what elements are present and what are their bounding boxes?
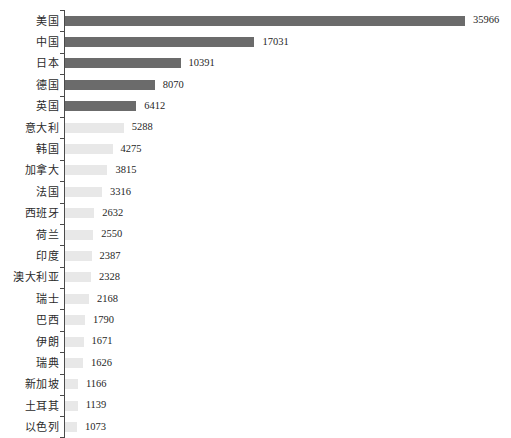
- bar-row: 法国3316: [0, 181, 511, 202]
- bar-group: 8070: [65, 80, 184, 90]
- axis-tick: [60, 96, 65, 97]
- category-label: 法国: [36, 186, 59, 197]
- bar-value-label: 3316: [110, 187, 131, 198]
- bar-group: 1073: [65, 422, 106, 432]
- bar[interactable]: [65, 101, 136, 111]
- bar[interactable]: [65, 230, 93, 240]
- axis-tick: [60, 160, 65, 161]
- bar[interactable]: [65, 358, 83, 368]
- bar[interactable]: [65, 16, 465, 26]
- category-label: 加拿大: [25, 165, 60, 176]
- bar-row-list: 美国35966中国17031日本10391德国8070英国6412意大利5288…: [0, 10, 511, 438]
- bar[interactable]: [65, 144, 113, 154]
- bar-value-label: 5288: [132, 122, 153, 133]
- bar-value-label: 1626: [91, 358, 112, 369]
- bar-group: 5288: [65, 123, 153, 133]
- bar[interactable]: [65, 422, 77, 432]
- bar-value-label: 2632: [102, 208, 123, 219]
- bar[interactable]: [65, 37, 254, 47]
- horizontal-bar-chart: 美国35966中国17031日本10391德国8070英国6412意大利5288…: [0, 0, 511, 438]
- axis-tick: [60, 288, 65, 289]
- axis-tick: [60, 416, 65, 417]
- bar-value-label: 1073: [85, 422, 106, 433]
- axis-tick: [60, 395, 65, 396]
- bar-row: 日本10391: [0, 53, 511, 74]
- bar-row: 巴西1790: [0, 309, 511, 330]
- plot-area: 美国35966中国17031日本10391德国8070英国6412意大利5288…: [0, 0, 511, 438]
- bar-group: 1166: [65, 379, 107, 389]
- axis-tick: [60, 245, 65, 246]
- axis-tick: [60, 203, 65, 204]
- bar-value-label: 35966: [473, 15, 499, 26]
- bar[interactable]: [65, 251, 92, 261]
- bar-group: 4275: [65, 144, 142, 154]
- axis-tick: [60, 74, 65, 75]
- bar-row: 韩国4275: [0, 138, 511, 159]
- axis-tick: [60, 352, 65, 353]
- bar[interactable]: [65, 401, 78, 411]
- axis-tick: [60, 181, 65, 182]
- bar-value-label: 2328: [99, 272, 120, 283]
- category-label: 西班牙: [25, 208, 60, 219]
- bar-value-label: 1166: [86, 379, 107, 390]
- bar-value-label: 2168: [97, 294, 118, 305]
- bar-group: 1790: [65, 315, 114, 325]
- bar-row: 西班牙2632: [0, 203, 511, 224]
- bar[interactable]: [65, 165, 107, 175]
- bar-row: 美国35966: [0, 10, 511, 31]
- category-label: 土耳其: [25, 400, 60, 411]
- bar[interactable]: [65, 379, 78, 389]
- category-label: 印度: [36, 250, 59, 261]
- bar-row: 新加坡1166: [0, 374, 511, 395]
- bar-group: 1671: [65, 337, 113, 347]
- category-label: 巴西: [36, 315, 59, 326]
- bar-row: 土耳其1139: [0, 395, 511, 416]
- bar-row: 印度2387: [0, 245, 511, 266]
- bar-row: 加拿大3815: [0, 160, 511, 181]
- bar[interactable]: [65, 294, 89, 304]
- bar-group: 35966: [65, 16, 499, 26]
- bar-value-label: 17031: [262, 37, 288, 48]
- bar[interactable]: [65, 272, 91, 282]
- category-label: 伊朗: [36, 336, 59, 347]
- bar[interactable]: [65, 187, 102, 197]
- bar[interactable]: [65, 123, 124, 133]
- bar-group: 3815: [65, 165, 136, 175]
- bar-value-label: 3815: [115, 165, 136, 176]
- bar-row: 瑞士2168: [0, 288, 511, 309]
- bar-value-label: 4275: [121, 144, 142, 155]
- bar[interactable]: [65, 337, 84, 347]
- bar-row: 意大利5288: [0, 117, 511, 138]
- category-label: 瑞士: [36, 293, 59, 304]
- bar-value-label: 6412: [144, 101, 165, 112]
- category-label: 以色列: [25, 422, 60, 433]
- bar[interactable]: [65, 208, 94, 218]
- category-label: 澳大利亚: [13, 272, 59, 283]
- bar-value-label: 1139: [86, 400, 107, 411]
- bar-value-label: 1790: [93, 315, 114, 326]
- bar-group: 10391: [65, 58, 215, 68]
- category-label: 瑞典: [36, 357, 59, 368]
- axis-tick: [60, 374, 65, 375]
- bar-row: 以色列1073: [0, 416, 511, 437]
- bar[interactable]: [65, 58, 181, 68]
- bar-row: 中国17031: [0, 31, 511, 52]
- category-label: 意大利: [25, 122, 60, 133]
- axis-tick: [60, 267, 65, 268]
- axis-tick: [60, 10, 65, 11]
- bar-value-label: 2550: [101, 229, 122, 240]
- bar[interactable]: [65, 315, 85, 325]
- bar-group: 2387: [65, 251, 121, 261]
- axis-tick: [60, 31, 65, 32]
- bar-group: 2632: [65, 208, 123, 218]
- bar-group: 2168: [65, 294, 118, 304]
- bar-row: 荷兰2550: [0, 224, 511, 245]
- bar-group: 1139: [65, 401, 106, 411]
- bar[interactable]: [65, 80, 155, 90]
- axis-tick: [60, 331, 65, 332]
- bar-row: 德国8070: [0, 74, 511, 95]
- category-label: 英国: [36, 101, 59, 112]
- bar-group: 3316: [65, 187, 131, 197]
- bar-row: 伊朗1671: [0, 331, 511, 352]
- bar-value-label: 8070: [163, 80, 184, 91]
